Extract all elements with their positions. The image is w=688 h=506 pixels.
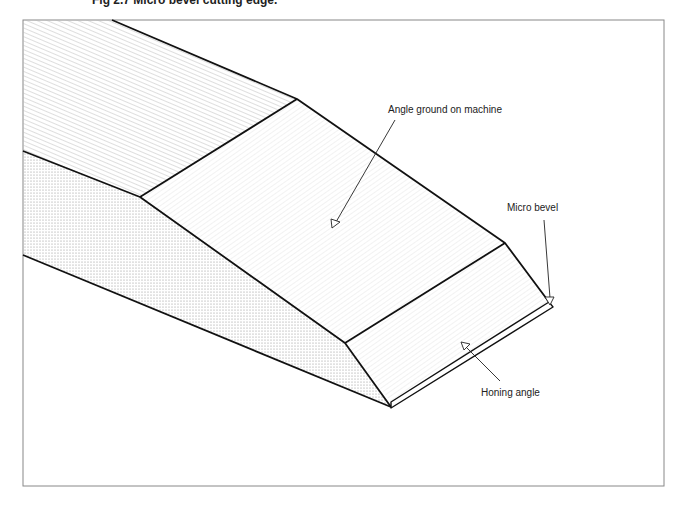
honing-angle-label: Honing angle (481, 387, 540, 398)
micro-bevel-leader (544, 220, 554, 305)
angle-ground-label: Angle ground on machine (388, 104, 502, 115)
micro-bevel-diagram: Angle ground on machine Micro bevel Honi… (0, 0, 688, 506)
micro-bevel-label: Micro bevel (507, 202, 558, 213)
